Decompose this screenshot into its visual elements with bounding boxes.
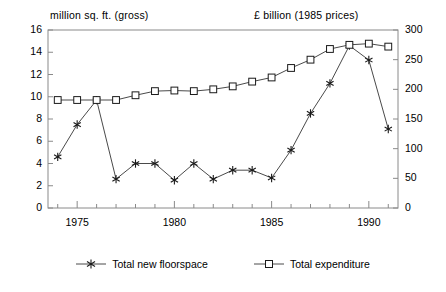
legend-item-total-new-floorspace: Total new floorspace xyxy=(76,258,208,270)
square-marker-icon xyxy=(132,92,139,99)
square-marker-icon xyxy=(346,41,353,48)
left-axis-tick-label: 2 xyxy=(20,179,42,191)
x-axis-tick-label: 1985 xyxy=(252,216,292,228)
left-axis-tick-label: 14 xyxy=(20,45,42,57)
right-axis-tick-label: 250 xyxy=(405,53,433,65)
right-axis-tick-label: 300 xyxy=(405,23,433,35)
square-marker-icon xyxy=(365,40,372,47)
right-axis-tick-label: 50 xyxy=(405,171,433,183)
series-line xyxy=(58,46,389,181)
asterisk-marker-icon xyxy=(76,258,106,270)
chart-legend: Total new floorspace Total expenditure xyxy=(0,258,446,270)
square-marker-icon xyxy=(268,74,275,81)
square-marker-icon xyxy=(113,97,120,104)
square-marker-icon xyxy=(152,88,159,95)
left-axis-tick-label: 8 xyxy=(20,112,42,124)
chart-figure: million sq. ft. (gross) £ billion (1985 … xyxy=(0,0,446,292)
right-axis-title: £ billion (1985 prices) xyxy=(254,9,358,21)
x-axis-tick-label: 1980 xyxy=(154,216,194,228)
left-axis-title: million sq. ft. (gross) xyxy=(50,9,149,21)
square-marker-icon xyxy=(327,46,334,53)
square-marker-icon xyxy=(190,88,197,95)
right-axis-tick-label: 200 xyxy=(405,82,433,94)
right-axis-tick-label: 0 xyxy=(405,201,433,213)
square-marker-icon xyxy=(74,97,81,104)
left-axis-tick-label: 4 xyxy=(20,157,42,169)
left-axis-tick-label: 12 xyxy=(20,68,42,80)
square-marker-icon xyxy=(249,78,256,85)
right-axis-tick-label: 150 xyxy=(405,112,433,124)
plot-area xyxy=(0,0,446,292)
square-marker-icon xyxy=(54,97,61,104)
left-axis-tick-label: 10 xyxy=(20,90,42,102)
square-marker-icon xyxy=(93,97,100,104)
square-marker-icon xyxy=(210,86,217,93)
legend-label: Total new floorspace xyxy=(112,258,208,270)
right-axis-tick-label: 100 xyxy=(405,142,433,154)
plot-frame xyxy=(48,30,398,208)
square-marker-icon xyxy=(254,258,284,270)
legend-item-total-expenditure: Total expenditure xyxy=(254,258,370,270)
legend-label: Total expenditure xyxy=(290,258,370,270)
x-axis-tick-label: 1975 xyxy=(57,216,97,228)
left-axis-tick-label: 16 xyxy=(20,23,42,35)
left-axis-tick-label: 0 xyxy=(20,201,42,213)
series-total-new-floorspace xyxy=(54,41,392,184)
x-axis-tick-label: 1990 xyxy=(349,216,389,228)
square-marker-icon xyxy=(385,43,392,50)
square-marker-icon xyxy=(229,83,236,90)
square-marker-icon xyxy=(171,87,178,94)
left-axis-tick-label: 6 xyxy=(20,134,42,146)
square-marker-icon xyxy=(307,56,314,63)
square-marker-icon xyxy=(288,65,295,72)
series-line xyxy=(58,44,389,100)
series-total-expenditure xyxy=(54,40,391,103)
